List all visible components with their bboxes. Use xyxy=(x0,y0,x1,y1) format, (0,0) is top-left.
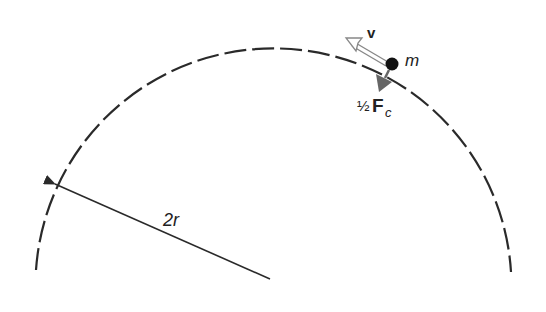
velocity-label: v xyxy=(367,24,376,41)
mass-label: m xyxy=(405,51,419,70)
circular-motion-diagram: 2r v m ½ F c xyxy=(0,0,546,312)
mass-point xyxy=(386,58,399,71)
radius-label: 2r xyxy=(162,210,180,230)
svg-text:F: F xyxy=(372,95,384,116)
svg-text:c: c xyxy=(385,105,392,120)
svg-text:½: ½ xyxy=(357,97,370,114)
circular-path-arc xyxy=(36,48,511,272)
radius-arrow xyxy=(55,184,270,279)
force-label: ½ F c xyxy=(357,95,392,120)
